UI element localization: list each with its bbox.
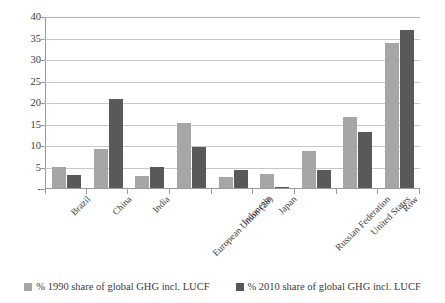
legend-item-1990[interactable]: % 1990 share of global GHG incl. LUCF (24, 281, 209, 293)
x-axis-category-label: Row (400, 194, 420, 214)
legend-swatch-icon-2010 (236, 283, 244, 291)
legend-label-2010: % 2010 share of global GHG incl. LUCF (248, 281, 421, 293)
bar-groups (46, 17, 420, 188)
bar-group (295, 17, 337, 188)
bar[interactable] (317, 170, 331, 188)
bar[interactable] (177, 123, 191, 188)
x-axis-label-cell: European Union (28) (170, 192, 212, 272)
y-axis-tick-label: 10 (3, 141, 41, 151)
bar-group (212, 17, 254, 188)
y-axis-tick-label: 5 (3, 163, 41, 173)
y-axis-tick-label: - (3, 184, 41, 194)
bar-group (46, 17, 88, 188)
bar[interactable] (358, 132, 372, 188)
x-axis-label-cell: United States (337, 192, 379, 272)
bar-group (379, 17, 421, 188)
x-axis-label-cell: China (87, 192, 129, 272)
plot-area (45, 17, 420, 189)
bar[interactable] (150, 167, 164, 189)
x-axis-label-cell: Brazil (45, 192, 87, 272)
x-axis-label-cell: Row (378, 192, 420, 272)
chart-legend: % 1990 share of global GHG incl. LUCF % … (0, 281, 445, 293)
x-axis-label-cell: India (128, 192, 170, 272)
bar[interactable] (343, 117, 357, 188)
bar[interactable] (52, 167, 66, 189)
bar[interactable] (385, 43, 399, 188)
bar[interactable] (400, 30, 414, 188)
y-axis-tick-label: 30 (3, 55, 41, 65)
legend-swatch-icon-1990 (24, 283, 32, 291)
bar-group (254, 17, 296, 188)
x-axis-label-cell: Japan (253, 192, 295, 272)
bar[interactable] (109, 99, 123, 188)
y-axis-tick-label: 25 (3, 77, 41, 87)
y-axis-tick-label: 40 (3, 12, 41, 22)
bar[interactable] (94, 149, 108, 188)
y-axis: 403530252015105- (0, 17, 41, 189)
bar-group (337, 17, 379, 188)
x-axis-label-cell: Russian Federation (295, 192, 337, 272)
bar-group (171, 17, 213, 188)
bar[interactable] (234, 170, 248, 188)
legend-item-2010[interactable]: % 2010 share of global GHG incl. LUCF (236, 281, 421, 293)
bar[interactable] (302, 151, 316, 188)
x-axis-category-label: India (151, 194, 172, 215)
bar[interactable] (192, 147, 206, 188)
bar[interactable] (135, 176, 149, 188)
x-axis-labels: BrazilChinaIndiaEuropean Union (28)Indon… (45, 192, 420, 272)
x-axis-label-cell: Indonesia (212, 192, 254, 272)
bar-chart: 403530252015105- BrazilChinaIndiaEuropea… (0, 0, 445, 303)
bar-group (88, 17, 130, 188)
bar[interactable] (260, 174, 274, 188)
y-axis-tick-label: 35 (3, 34, 41, 44)
y-axis-tick-label: 15 (3, 120, 41, 130)
bar[interactable] (219, 177, 233, 188)
legend-label-1990: % 1990 share of global GHG incl. LUCF (36, 281, 209, 293)
y-axis-tick-label: 20 (3, 98, 41, 108)
bar-group (129, 17, 171, 188)
bar[interactable] (67, 175, 81, 188)
bar[interactable] (275, 187, 289, 188)
